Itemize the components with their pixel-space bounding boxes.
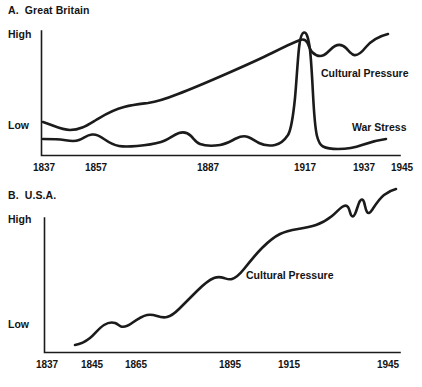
panel-a-xtick-1917: 1917 [294, 162, 316, 173]
panel-b-xtick-1845: 1845 [81, 359, 103, 370]
panel-a-xtick-1887: 1887 [197, 162, 219, 173]
panel-b-xtick-1915: 1915 [278, 359, 300, 370]
panel-b-xtick-1865: 1865 [125, 359, 147, 370]
panel-b-cultural-pressure-curve [75, 189, 396, 345]
panel-b-plot [0, 185, 422, 387]
panel-a-xtick-1837: 1837 [33, 162, 55, 173]
chart-panel-great-britain: A. Great Britain High Low Cultural Press… [0, 0, 422, 190]
panel-b-xtick-1895: 1895 [219, 359, 241, 370]
panel-a-war-stress-curve [43, 32, 386, 149]
panel-a-war-stress-label: War Stress [352, 121, 406, 133]
panel-a-cultural-pressure-label: Cultural Pressure [321, 67, 409, 79]
panel-a-xtick-1937: 1937 [353, 162, 375, 173]
panel-b-axes [45, 218, 401, 353]
panel-a-xtick-1945: 1945 [391, 162, 413, 173]
panel-b-xtick-1945: 1945 [377, 359, 399, 370]
panel-b-cultural-pressure-label: Cultural Pressure [246, 269, 334, 281]
panel-b-xtick-1837: 1837 [36, 359, 58, 370]
panel-a-cultural-pressure-curve [43, 34, 388, 130]
panel-a-xtick-1857: 1857 [85, 162, 107, 173]
chart-panel-usa: B. U.S.A. High Low Cultural Pressure 183… [0, 185, 422, 387]
